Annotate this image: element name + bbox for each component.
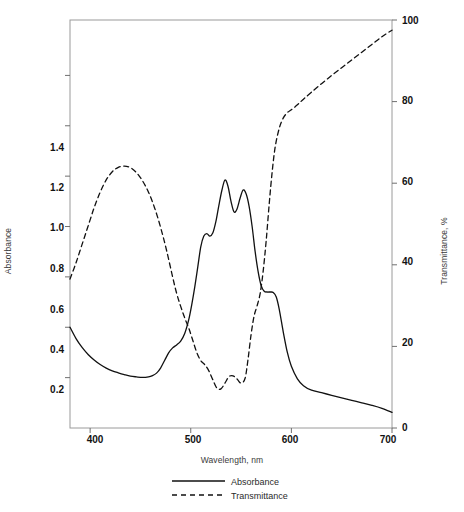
legend-line-keys [172,481,225,495]
spectrum-chart-figure: Absorbance Transmittance, % Wavelength, … [0,0,464,512]
data-curves [70,30,392,412]
plot-frame [70,20,392,428]
plot-area [0,0,464,512]
curve-transmittance [70,30,392,389]
curve-absorbance [70,180,392,413]
